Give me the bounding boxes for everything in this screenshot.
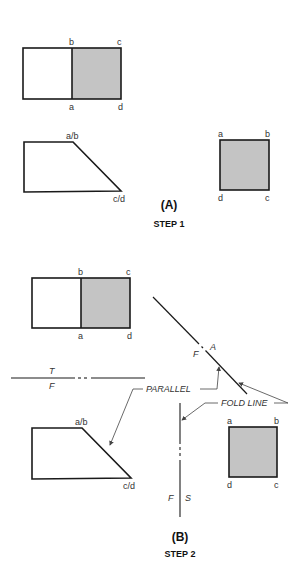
label-cd: c/d xyxy=(123,481,135,491)
label-b: b xyxy=(69,37,74,47)
step2-front-view: a/b c/d xyxy=(32,417,135,491)
label-a: a xyxy=(78,331,83,341)
fold-label-t: T xyxy=(49,366,56,376)
label-a: a xyxy=(227,416,232,426)
fold-label-f: F xyxy=(49,381,55,391)
fold-line-fs: F S xyxy=(168,403,191,517)
label-b: b xyxy=(274,416,279,426)
step2-side-view: a b d c xyxy=(227,416,279,490)
label-d: d xyxy=(118,102,123,112)
step2-top-view: b c a d xyxy=(32,267,132,341)
label-ab: a/b xyxy=(75,417,88,427)
fold-label-a: A xyxy=(209,342,216,352)
label-a: a xyxy=(218,129,223,139)
label-c: c xyxy=(265,193,270,203)
label-d: d xyxy=(227,480,232,490)
step1-caption: (A) xyxy=(161,198,178,212)
step1-top-view: b c a d xyxy=(23,37,123,112)
fold-line-tf: T F xyxy=(11,366,145,391)
fold-label-s: S xyxy=(185,493,191,503)
fold-label-f: F xyxy=(168,493,174,503)
fold-line-annotation: FOLD LINE xyxy=(182,383,288,420)
fold-line-label: FOLD LINE xyxy=(221,398,269,408)
label-b: b xyxy=(78,267,83,277)
label-b: b xyxy=(265,129,270,139)
label-cd: c/d xyxy=(113,194,125,204)
fold-label-f: F xyxy=(193,349,199,359)
parallel-annotation: PARALLEL xyxy=(110,367,219,445)
label-c: c xyxy=(126,267,131,277)
step2-label: STEP 2 xyxy=(165,549,196,559)
label-ab: a/b xyxy=(66,131,79,141)
label-c: c xyxy=(274,480,279,490)
step1-label: STEP 1 xyxy=(154,219,185,229)
label-a: a xyxy=(69,102,74,112)
label-c: c xyxy=(117,37,122,47)
orthographic-projection-diagram: b c a d a/b c/d a b d c (A) STEP 1 b c a… xyxy=(0,0,298,562)
step2-caption: (B) xyxy=(172,530,189,544)
step1-front-view: a/b c/d xyxy=(24,131,125,204)
parallel-label: PARALLEL xyxy=(146,384,191,394)
label-d: d xyxy=(218,193,223,203)
step1-side-view: a b d c xyxy=(218,129,270,203)
label-d: d xyxy=(127,331,132,341)
fold-line-fa: F A xyxy=(153,297,247,394)
